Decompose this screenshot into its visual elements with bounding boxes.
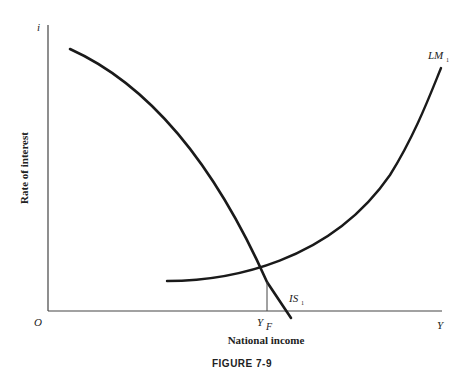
yf-label-sub: F: [265, 321, 273, 332]
is-label-sub: 1: [301, 300, 304, 306]
y-axis-symbol: i: [37, 21, 40, 33]
x-axis-title: National income: [228, 334, 305, 346]
x-axis-symbol: Y: [437, 319, 445, 331]
lm-label-sub: 1: [446, 57, 449, 63]
is-label-main: IS: [288, 292, 299, 304]
origin-label: O: [34, 316, 42, 328]
yf-label-main: Y: [257, 316, 265, 328]
is-lm-diagram: i O Y Rate of interest National income Y…: [0, 0, 464, 376]
is-label: IS 1: [288, 292, 304, 306]
lm-label: LM 1: [427, 49, 449, 63]
yf-label: Y F: [257, 316, 273, 332]
lm-label-main: LM: [427, 49, 444, 61]
figure-caption: FIGURE 7-9: [212, 358, 272, 369]
is-curve: [70, 49, 291, 318]
y-axis-title: Rate of interest: [18, 132, 30, 204]
